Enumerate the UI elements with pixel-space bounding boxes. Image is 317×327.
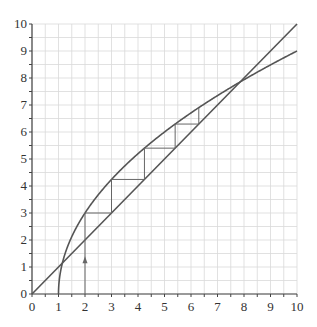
x-tick-label: 5: [161, 299, 168, 314]
x-tick-label: 6: [188, 299, 195, 314]
y-tick-label: 9: [21, 43, 28, 58]
x-tick-label: 1: [55, 299, 62, 314]
y-tick-label: 0: [21, 286, 28, 301]
x-tick-label: 7: [214, 299, 221, 314]
y-tick-label: 3: [21, 205, 28, 220]
x-tick-label: 0: [29, 299, 36, 314]
y-tick-label: 8: [21, 70, 28, 85]
y-axis-labels: 012345678910: [14, 16, 28, 301]
x-tick-label: 9: [267, 299, 274, 314]
arrow-up-icon: [83, 256, 88, 263]
y-tick-label: 7: [21, 97, 28, 112]
x-axis-labels: 012345678910: [29, 299, 304, 314]
x-tick-label: 8: [241, 299, 248, 314]
y-tick-label: 4: [21, 178, 28, 193]
x-tick-label: 4: [135, 299, 142, 314]
x-tick-label: 3: [108, 299, 115, 314]
cobweb-staircase: [85, 108, 199, 294]
y-tick-label: 6: [21, 124, 28, 139]
cobweb-diagram: 012345678910 012345678910: [0, 0, 317, 327]
y-tick-label: 10: [14, 16, 27, 31]
x-tick-label: 10: [291, 299, 304, 314]
y-tick-label: 5: [21, 151, 28, 166]
y-tick-label: 2: [21, 232, 28, 247]
y-tick-label: 1: [21, 259, 28, 274]
x-tick-label: 2: [82, 299, 89, 314]
